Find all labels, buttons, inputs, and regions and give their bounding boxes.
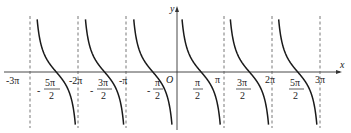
fraction-label-5pi-over-2: 5π 2 [289,77,304,101]
graph-svg: -3π -2π -π O π 2π 3π x y - 5π 2 - 3π 2 -… [0,0,351,133]
fraction-label-neg5pi-over-2: - 5π 2 [37,77,60,101]
svg-text:-: - [90,85,93,96]
origin-label: O [166,74,173,85]
x-axis-label: x [339,59,345,70]
tick-label-negpi: -π [119,75,127,86]
svg-text:2: 2 [293,90,298,101]
svg-text:-: - [37,85,40,96]
tick-label-2pi: 2π [265,74,275,85]
svg-text:2: 2 [240,90,245,101]
tick-label-3pi: 3π [315,74,325,85]
svg-text:3π: 3π [98,77,108,88]
svg-text:π: π [195,77,200,88]
svg-text:2: 2 [49,90,54,101]
svg-text:2: 2 [155,90,160,101]
svg-text:5π: 5π [45,77,55,88]
svg-text:π: π [155,77,160,88]
y-axis-arrow-icon [175,6,179,12]
fraction-label-pi-over-2: π 2 [193,77,203,101]
svg-text:5π: 5π [290,77,300,88]
cotangent-graph: -3π -2π -π O π 2π 3π x y - 5π 2 - 3π 2 -… [0,0,351,133]
tick-label-neg2pi: -2π [69,75,82,86]
x-axis-arrow-icon [336,70,342,74]
y-axis-label: y [169,3,175,14]
tick-label-pi: π [215,74,220,85]
fraction-label-neg3pi-over-2: - 3π 2 [90,77,112,101]
svg-text:2: 2 [101,90,106,101]
tick-label-neg3pi: -3π [6,75,19,86]
svg-text:-: - [147,85,150,96]
svg-text:3π: 3π [237,77,247,88]
fraction-label-3pi-over-2: 3π 2 [236,77,251,101]
svg-text:2: 2 [195,90,200,101]
